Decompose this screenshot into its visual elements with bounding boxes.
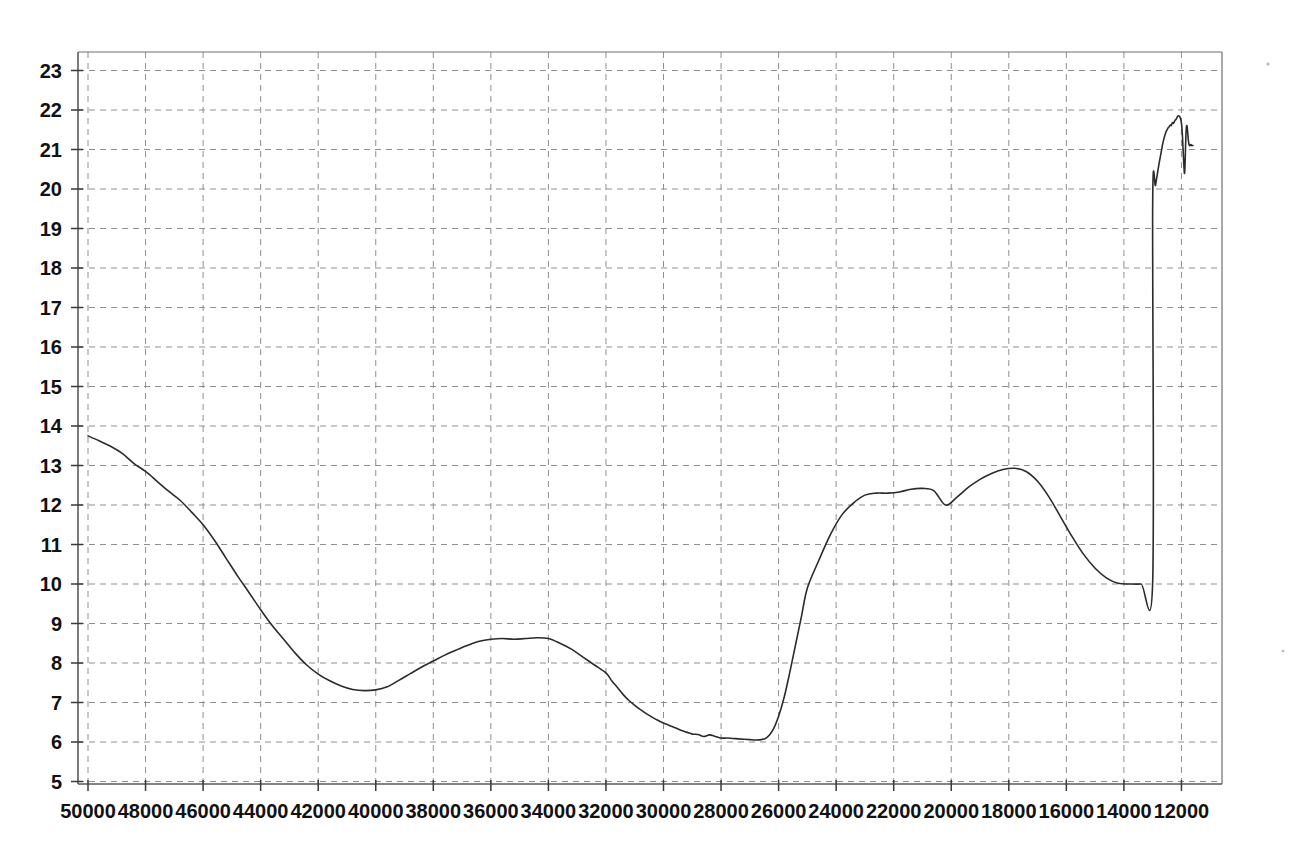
ytick-label-20: 20	[40, 178, 62, 200]
ytick-label-5: 5	[51, 771, 62, 793]
ytick-label-14: 14	[40, 415, 63, 437]
scan-speck-artifact-2	[1282, 650, 1285, 653]
ytick-label-11: 11	[41, 534, 62, 556]
xtick-label-34000: 34000	[521, 800, 577, 822]
plot-frame	[78, 52, 1222, 784]
xtick-label-46000: 46000	[175, 800, 231, 822]
xtick-label-28000: 28000	[693, 800, 749, 822]
ytick-label-8: 8	[51, 652, 62, 674]
xtick-label-40000: 40000	[348, 800, 404, 822]
xtick-label-18000: 18000	[981, 800, 1037, 822]
spectrum-data-curve	[88, 116, 1193, 740]
line-chart-svg: 567891011121314151617181920212223 500004…	[0, 0, 1292, 858]
vertical-gridlines	[88, 52, 1181, 784]
xtick-label-14000: 14000	[1096, 800, 1152, 822]
xtick-label-32000: 32000	[578, 800, 634, 822]
xtick-label-38000: 38000	[405, 800, 461, 822]
xtick-label-26000: 26000	[751, 800, 807, 822]
ytick-label-18: 18	[40, 257, 62, 279]
y-axis-tickmarks	[71, 71, 83, 782]
xtick-label-36000: 36000	[463, 800, 519, 822]
xtick-label-48000: 48000	[118, 800, 174, 822]
xtick-label-20000: 20000	[923, 800, 979, 822]
ytick-label-7: 7	[51, 692, 62, 714]
ytick-label-17: 17	[40, 297, 62, 319]
ytick-label-22: 22	[40, 99, 62, 121]
ytick-label-9: 9	[51, 613, 62, 635]
ytick-label-6: 6	[51, 731, 62, 753]
ytick-label-13: 13	[40, 455, 62, 477]
ytick-label-19: 19	[40, 218, 62, 240]
xtick-label-16000: 16000	[1039, 800, 1095, 822]
ytick-label-12: 12	[40, 494, 62, 516]
ytick-label-23: 23	[40, 60, 62, 82]
xtick-label-42000: 42000	[290, 800, 346, 822]
ytick-label-16: 16	[40, 336, 62, 358]
y-axis-tick-labels: 567891011121314151617181920212223	[40, 60, 63, 793]
xtick-label-30000: 30000	[636, 800, 692, 822]
xtick-label-24000: 24000	[808, 800, 864, 822]
ytick-label-21: 21	[40, 139, 62, 161]
chart-container: 567891011121314151617181920212223 500004…	[0, 0, 1292, 858]
xtick-label-50000: 50000	[60, 800, 116, 822]
xtick-label-44000: 44000	[233, 800, 289, 822]
xtick-label-22000: 22000	[866, 800, 922, 822]
ytick-label-10: 10	[40, 573, 62, 595]
horizontal-gridlines	[78, 71, 1222, 782]
x-axis-tick-labels: 5000048000460004400042000400003800036000…	[60, 800, 1209, 822]
scan-speck-artifact	[1266, 62, 1269, 65]
xtick-label-12000: 12000	[1154, 800, 1210, 822]
ytick-label-15: 15	[40, 376, 62, 398]
